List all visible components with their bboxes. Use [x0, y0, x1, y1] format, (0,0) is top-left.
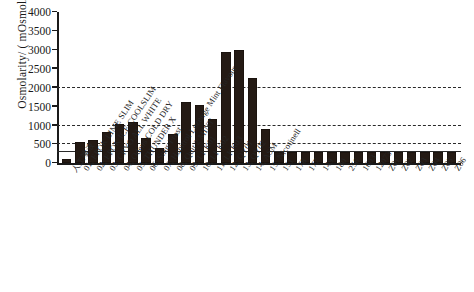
osmolarity-bar-chart: Osmolarity/ ( mOsmol/L ) 050010001500200…	[0, 0, 474, 292]
bar-slot	[365, 12, 378, 163]
bar-slot	[299, 12, 312, 163]
y-axis-tick-label: 2500	[28, 63, 51, 75]
bar-slot	[60, 12, 73, 163]
x-axis-tick-labels: 人工唾液01; EPOK LIME SLIM02; EPOK ICE COOLS…	[57, 167, 461, 287]
y-axis-tick-label: 0	[45, 157, 51, 169]
bar-slot	[418, 12, 431, 163]
y-axis-tick-label: 3000	[28, 44, 51, 56]
y-axis-tick-label: 3500	[28, 25, 51, 37]
bar-slot	[378, 12, 391, 163]
y-axis-tick-label: 4000	[28, 6, 51, 18]
bar-slot	[392, 12, 405, 163]
bar-slot	[339, 12, 352, 163]
y-axis-tick-label: 1500	[28, 101, 51, 113]
y-axis-tick-label: 500	[34, 138, 51, 150]
bar-slot	[312, 12, 325, 163]
bar-slot	[405, 12, 418, 163]
bar-slot	[445, 12, 458, 163]
y-axis-title: Osmolarity/ ( mOsmol/L )	[16, 0, 28, 126]
bar-slot	[325, 12, 338, 163]
y-axis-tick-label: 2000	[28, 82, 51, 94]
bar-slot	[352, 12, 365, 163]
bar-slot	[431, 12, 444, 163]
y-axis-tick-label: 1000	[28, 120, 51, 132]
